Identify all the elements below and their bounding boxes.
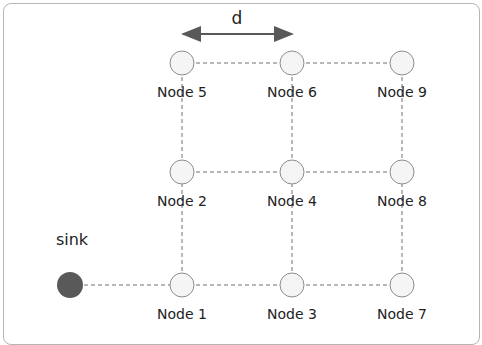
distance-arrow: d [183,8,292,34]
node-circle [280,160,304,184]
node-1: Node 1 [157,273,207,322]
sink-node: sink [56,230,89,298]
node-circle [390,160,414,184]
node-circle [170,273,194,297]
sink-label: sink [56,230,89,249]
node-label: Node 3 [267,306,317,322]
node-label: Node 2 [157,193,207,209]
node-circle [170,51,194,75]
node-2: Node 2 [157,160,207,209]
node-3: Node 3 [267,273,317,322]
edges-layer [70,63,402,285]
node-circle [170,160,194,184]
node-label: Node 5 [157,84,207,100]
node-label: Node 7 [377,306,427,322]
node-label: Node 9 [377,84,427,100]
node-8: Node 8 [377,160,427,209]
node-circle [390,273,414,297]
node-label: Node 6 [267,84,317,100]
node-circle [280,51,304,75]
node-label: Node 8 [377,193,427,209]
node-label: Node 1 [157,306,207,322]
node-7: Node 7 [377,273,427,322]
distance-label: d [232,8,243,28]
node-circle [280,273,304,297]
sink-circle [57,272,83,298]
node-9: Node 9 [377,51,427,100]
node-label: Node 4 [267,193,317,209]
node-circle [390,51,414,75]
node-5: Node 5 [157,51,207,100]
node-6: Node 6 [267,51,317,100]
